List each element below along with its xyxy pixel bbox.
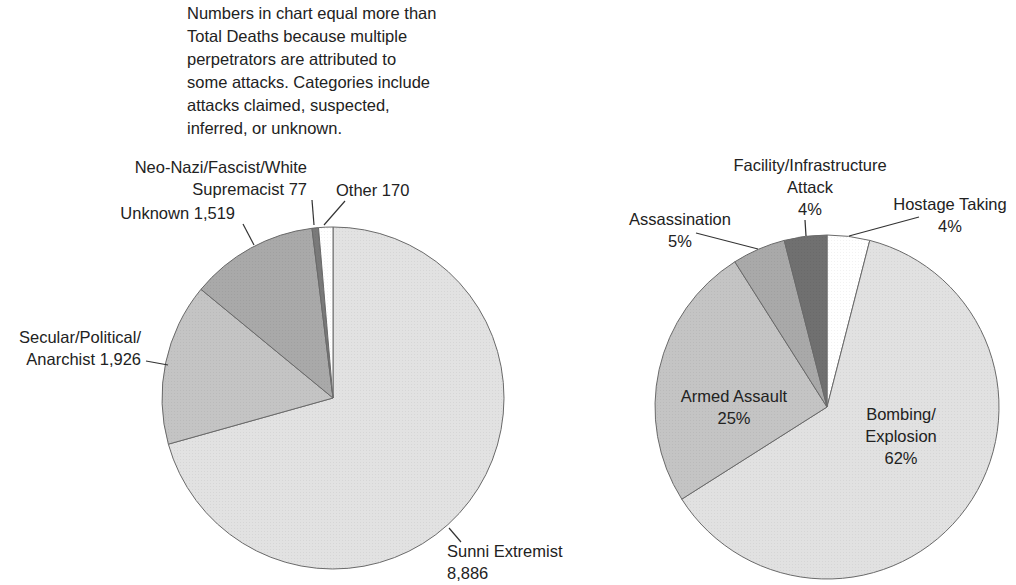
perpetrator-pie-chart: Sunni Extremist8,886Secular/Political/An…	[19, 158, 563, 582]
slice-label-unknown: Unknown 1,519	[120, 204, 235, 222]
attack-type-pie-chart: Hostage Taking4%Bombing/Explosion62%Arme…	[629, 156, 1007, 579]
slice-label-facility-infrastructure-attack: Facility/InfrastructureAttack4%	[733, 156, 886, 218]
leader-line	[449, 528, 461, 542]
leader-line	[805, 220, 806, 236]
slice-label-hostage-taking: Hostage Taking4%	[893, 195, 1006, 235]
slice-label-other: Other 170	[336, 181, 409, 199]
leader-line	[696, 233, 758, 249]
slice-label-secular-political-anarchist: Secular/Political/Anarchist 1,926	[19, 328, 141, 368]
leader-line	[324, 201, 345, 225]
slice-label-sunni-extremist: Sunni Extremist8,886	[447, 542, 563, 582]
leader-line	[312, 200, 314, 225]
slice-label-assassination: Assassination5%	[629, 210, 731, 250]
leader-line	[146, 361, 168, 365]
slice-label-neo-nazi-fascist-white-supremacist: Neo-Nazi/Fascist/WhiteSupremacist 77	[135, 158, 307, 198]
leader-line	[243, 224, 254, 245]
leader-line	[849, 217, 919, 236]
charts-canvas: Sunni Extremist8,886Secular/Political/An…	[0, 0, 1016, 585]
